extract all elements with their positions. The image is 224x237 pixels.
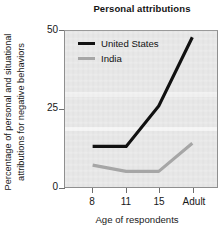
chart-figure: Personal attributions Percentage of pers… [0, 0, 224, 237]
x-tick-label-15: 15 [153, 196, 164, 207]
chart-legend: United States India [78, 36, 198, 66]
y-tick-label-25: 25 [26, 103, 58, 113]
x-tick-mark-adult [193, 188, 194, 193]
y-axis-title-line-1: Percentage of personal and situational [2, 34, 15, 191]
legend-item-india: India [78, 51, 198, 65]
legend-label-india: India [101, 53, 122, 64]
legend-swatch-icon-india [78, 57, 95, 60]
y-tick-label-50: 50 [26, 25, 58, 35]
legend-swatch-icon-united-states [78, 42, 95, 45]
chart-title: Personal attributions [60, 3, 224, 14]
legend-item-united-states: United States [78, 36, 198, 50]
x-tick-mark-11 [126, 188, 127, 193]
x-tick-label-11: 11 [121, 196, 131, 207]
x-tick-label-adult: Adult [183, 196, 206, 207]
x-axis-title: Age of respondents [50, 214, 224, 225]
y-tick-label-0: 0 [26, 182, 58, 192]
legend-label-united-states: United States [101, 38, 159, 49]
y-tick-mark-0 [59, 188, 65, 189]
x-tick-mark-15 [159, 188, 160, 193]
x-tick-mark-8 [92, 188, 93, 193]
x-tick-label-8: 8 [89, 196, 95, 207]
